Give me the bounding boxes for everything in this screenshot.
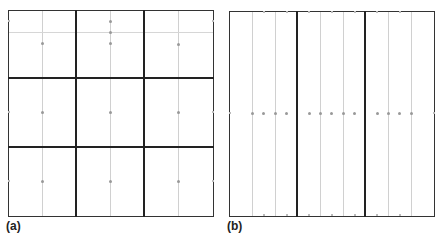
node xyxy=(177,111,180,114)
node xyxy=(330,112,333,115)
edge-tick xyxy=(8,20,10,22)
edge-tick xyxy=(212,180,214,182)
edge-tick xyxy=(376,214,378,216)
panel-a-thick-hline xyxy=(8,77,214,79)
node xyxy=(274,112,277,115)
node xyxy=(398,112,401,115)
panel-a-thick-hline xyxy=(8,146,214,148)
panel-b-label: (b) xyxy=(227,219,242,233)
node xyxy=(41,42,44,45)
edge-tick xyxy=(354,214,356,216)
edge-tick xyxy=(8,180,10,182)
node xyxy=(177,180,180,183)
edge-tick xyxy=(433,112,435,114)
node xyxy=(109,111,112,114)
node xyxy=(109,180,112,183)
node xyxy=(285,112,288,115)
edge-tick xyxy=(331,11,333,13)
edge-tick xyxy=(212,111,214,113)
edge-tick xyxy=(229,112,231,114)
node xyxy=(109,20,112,23)
edge-tick xyxy=(263,11,265,13)
node xyxy=(342,112,345,115)
edge-tick xyxy=(8,111,10,113)
node xyxy=(109,42,112,45)
node xyxy=(177,43,180,46)
node xyxy=(41,111,44,114)
panel-a-thick-vline xyxy=(143,10,145,217)
node xyxy=(308,112,311,115)
edge-tick xyxy=(354,11,356,13)
node xyxy=(262,112,265,115)
panel-a-thick-vline xyxy=(75,10,77,217)
node xyxy=(251,112,254,115)
edge-tick xyxy=(399,214,401,216)
node xyxy=(41,180,44,183)
edge-tick xyxy=(308,214,310,216)
node xyxy=(376,112,379,115)
edge-tick xyxy=(263,214,265,216)
edge-tick xyxy=(308,11,310,13)
edge-tick xyxy=(286,214,288,216)
node xyxy=(353,112,356,115)
panel-b-thick-vline xyxy=(296,11,298,217)
panel-b-thick-vline xyxy=(364,11,366,217)
edge-tick xyxy=(376,11,378,13)
node xyxy=(387,112,390,115)
node xyxy=(319,112,322,115)
node xyxy=(410,112,413,115)
edge-tick xyxy=(212,20,214,22)
edge-tick xyxy=(286,11,288,13)
edge-tick xyxy=(331,214,333,216)
node xyxy=(109,31,112,34)
edge-tick xyxy=(399,11,401,13)
panel-a-label: (a) xyxy=(6,219,21,233)
